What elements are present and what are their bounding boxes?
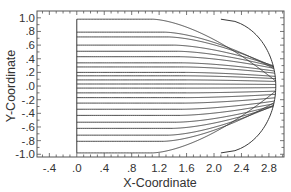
streamline: [77, 101, 275, 109]
x-tick-label: 2.8: [261, 162, 277, 174]
y-tick-label: .6: [25, 39, 35, 51]
streamline: [77, 80, 276, 82]
y-tick-label: 1.0: [19, 12, 35, 24]
y-tick-label: -.6: [22, 121, 35, 133]
y-tick-label: -1.0: [15, 148, 35, 160]
x-tick-label: 1.2: [151, 162, 167, 174]
x-tick-label: 1.6: [179, 162, 195, 174]
streamline: [77, 19, 276, 81]
y-tick-label: -.2: [22, 94, 35, 106]
x-tick-label: -.4: [43, 162, 57, 174]
y-axis-label: Y-Coordinate: [4, 50, 18, 123]
streamline: [77, 76, 276, 79]
streamline: [77, 105, 274, 135]
x-tick-label: .0: [72, 162, 82, 174]
streamline: [77, 91, 276, 93]
y-tick-label: .2: [25, 66, 35, 78]
y-tick-label: -.8: [22, 135, 35, 147]
y-axis-ticks: 1.0.8.6.4.2.0-.2-.4-.6-.8-1.0: [15, 12, 284, 160]
x-tick-label: .8: [127, 162, 137, 174]
streamlines: [77, 19, 276, 153]
y-tick-label: .4: [25, 53, 35, 65]
x-tick-label: 2.0: [206, 162, 222, 174]
x-axis-label: X-Coordinate: [123, 176, 197, 190]
y-tick-label: -.4: [22, 107, 36, 119]
bow-boundary: [221, 19, 276, 153]
streamline: [77, 37, 274, 67]
y-tick-label: .8: [25, 25, 35, 37]
x-tick-label: 2.4: [233, 162, 250, 174]
streamline: [77, 98, 275, 103]
streamline: [77, 94, 276, 97]
streamline: [77, 106, 274, 123]
x-tick-label: .4: [99, 162, 109, 174]
y-tick-label: .0: [25, 80, 35, 92]
streamline-plot: -.4.0.4.81.21.62.02.42.8 1.0.8.6.4.2.0-.…: [0, 0, 291, 192]
